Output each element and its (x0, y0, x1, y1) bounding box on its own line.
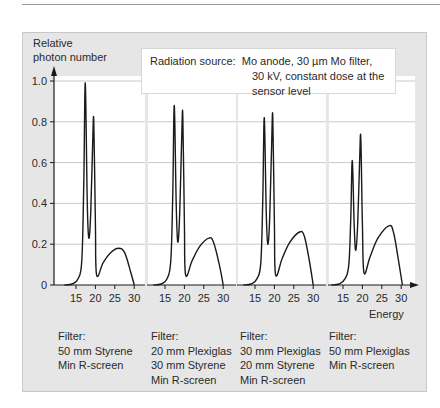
x-tick-label: 20 (89, 292, 101, 304)
x-tick-label: 25 (376, 292, 388, 304)
x-tick-label: 30 (395, 292, 407, 304)
x-tick-label: 25 (109, 292, 121, 304)
x-tick-label: 20 (268, 292, 280, 304)
panel-2-background (148, 76, 236, 285)
y-axis-arrow-icon (51, 66, 57, 76)
filter-caption-1: Filter: 50 mm Styrene Min R-screen (58, 329, 133, 373)
y-axis-title: Relative photon number (33, 36, 107, 64)
y-tick-label: 0 (41, 279, 47, 291)
x-tick-label: 15 (337, 292, 349, 304)
x-tick-label: 15 (70, 292, 82, 304)
filter-caption-3: Filter: 30 mm Plexiglas 20 mm Styrene Mi… (240, 329, 321, 387)
x-tick-label: 15 (249, 292, 261, 304)
y-tick-label: 0.2 (32, 238, 47, 250)
x-tick-label: 25 (198, 292, 210, 304)
radiation-source-box: Radiation source: Mo anode, 30 µm Mo fil… (141, 48, 396, 94)
panel-1-background (54, 76, 145, 285)
x-tick-label: 20 (356, 292, 368, 304)
y-tick-label: 0.8 (32, 116, 47, 128)
x-tick-label: 15 (159, 292, 171, 304)
y-tick-label: 0.6 (32, 157, 47, 169)
y-tick-label: 0.4 (32, 197, 47, 209)
x-tick-label: 25 (288, 292, 300, 304)
panel-backgrounds (54, 76, 415, 285)
x-axis-title: Energy (369, 308, 404, 320)
x-tick-label: 20 (178, 292, 190, 304)
filter-caption-2: Filter: 20 mm Plexiglas 30 mm Styrene Mi… (151, 329, 232, 387)
source-line-1: Radiation source: Mo anode, 30 µm Mo fil… (150, 54, 395, 69)
x-tick-label: 30 (307, 292, 319, 304)
filter-caption-4: Filter: 50 mm Plexiglas Min R-screen (329, 329, 410, 373)
x-tick-label: 30 (128, 292, 140, 304)
source-line-2: 30 kV, constant dose at the sensor level (150, 69, 395, 99)
panel-3-background (238, 76, 326, 285)
x-tick-label: 30 (217, 292, 229, 304)
y-tick-label: 1.0 (32, 75, 47, 87)
